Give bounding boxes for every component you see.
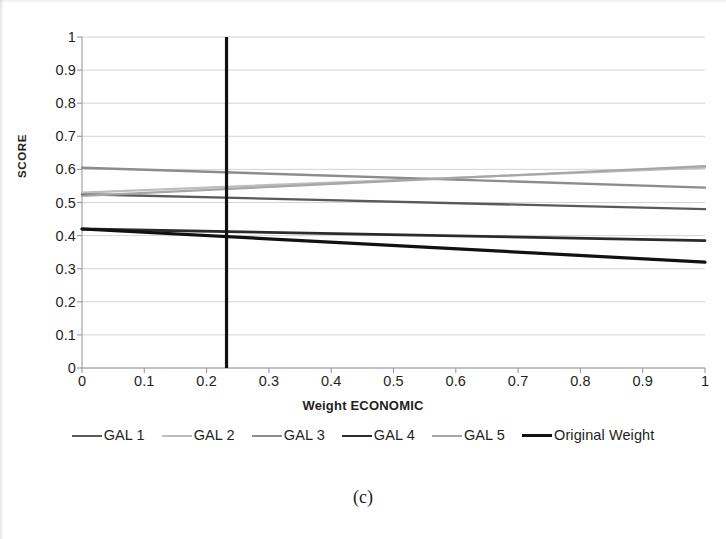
y-axis-tick-label: 0.2: [40, 295, 76, 310]
y-axis-tick-label: 0.9: [40, 63, 76, 78]
legend-line-swatch-icon: [522, 434, 552, 437]
legend-line-swatch-icon: [162, 435, 192, 437]
data-series-layer: [82, 166, 705, 262]
x-axis-tick-label: 0.9: [620, 374, 666, 389]
legend-item-original-weight[interactable]: Original Weight: [522, 428, 654, 443]
figure-caption: (c): [0, 487, 726, 508]
legend-item-label: GAL 5: [464, 428, 505, 443]
legend-item-gal-3[interactable]: GAL 3: [252, 428, 325, 443]
legend-item-label: GAL 4: [374, 428, 415, 443]
y-axis-tick-label: 0.6: [40, 162, 76, 177]
figure: 00.10.20.30.40.50.60.70.80.91 00.10.20.3…: [0, 0, 726, 539]
y-axis-tick-labels: 00.10.20.30.40.50.60.70.80.91: [34, 0, 76, 400]
legend-item-gal-2[interactable]: GAL 2: [162, 428, 235, 443]
x-axis-tick-label: 0.4: [308, 374, 354, 389]
tick-marks: [77, 37, 705, 373]
x-axis-tick-label: 0.8: [557, 374, 603, 389]
legend-item-gal-4[interactable]: GAL 4: [342, 428, 415, 443]
legend-item-gal-1[interactable]: GAL 1: [72, 428, 145, 443]
legend-line-swatch-icon: [432, 435, 462, 437]
y-axis-tick-label: 0.8: [40, 96, 76, 111]
y-axis-tick-label: 0.4: [40, 229, 76, 244]
x-axis-tick-label: 0: [59, 374, 105, 389]
legend-item-label: GAL 3: [284, 428, 325, 443]
legend-item-label: Original Weight: [554, 428, 654, 443]
y-axis-tick-label: 1: [40, 30, 76, 45]
y-axis-tick-label: 0.7: [40, 129, 76, 144]
legend-item-gal-5[interactable]: GAL 5: [432, 428, 505, 443]
series-line-gal-1: [82, 194, 705, 209]
legend-line-swatch-icon: [72, 435, 102, 437]
y-axis-tick-label: 0.5: [40, 196, 76, 211]
x-axis-tick-label: 1: [682, 374, 726, 389]
x-axis-title: Weight ECONOMIC: [0, 398, 726, 413]
x-axis-tick-label: 0.2: [184, 374, 230, 389]
legend-item-label: GAL 1: [104, 428, 145, 443]
chart-legend: GAL 1GAL 2GAL 3GAL 4GAL 5Original Weight: [0, 428, 726, 443]
legend-line-swatch-icon: [342, 435, 372, 437]
y-axis-tick-label: 0.3: [40, 262, 76, 277]
y-axis-tick-label: 0.1: [40, 328, 76, 343]
x-axis-tick-label: 0.6: [433, 374, 479, 389]
legend-item-label: GAL 2: [194, 428, 235, 443]
x-axis-tick-label: 0.3: [246, 374, 292, 389]
x-axis-tick-labels: 00.10.20.30.40.50.60.70.80.91: [0, 374, 726, 398]
x-axis-tick-label: 0.1: [121, 374, 167, 389]
x-axis-tick-label: 0.7: [495, 374, 541, 389]
x-axis-tick-label: 0.5: [371, 374, 417, 389]
y-axis-title: SCORE: [16, 134, 28, 178]
line-chart: 00.10.20.30.40.50.60.70.80.91 00.10.20.3…: [0, 0, 726, 470]
legend-line-swatch-icon: [252, 435, 282, 437]
